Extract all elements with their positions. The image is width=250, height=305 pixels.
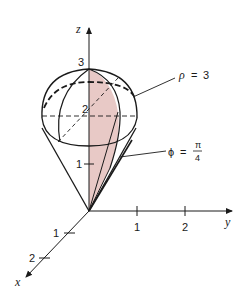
svg-text:3: 3 [203, 69, 209, 81]
cone-sphere-diagram: z y x 3 2 1 1 2 1 2 ρ = 3 ϕ = π 4 [0, 0, 250, 305]
svg-text:ρ: ρ [178, 68, 185, 82]
z-tick-1: 1 [76, 158, 82, 170]
y-tick-1: 1 [134, 221, 140, 233]
svg-text:π: π [195, 140, 201, 150]
cone-equation-label: ϕ = π 4 [168, 140, 202, 163]
svg-text:4: 4 [195, 153, 200, 163]
svg-text:=: = [180, 146, 186, 158]
y-tick-2: 2 [182, 221, 188, 233]
rho-leader-line [133, 78, 175, 97]
z-axis-label: z [75, 22, 81, 36]
sphere-equation-label: ρ = 3 [178, 68, 209, 82]
svg-text:=: = [191, 69, 197, 81]
x-tick-2: 2 [29, 252, 35, 264]
x-tick-1: 1 [53, 227, 59, 239]
axes [26, 28, 232, 277]
z-tick-2: 2 [82, 103, 88, 115]
phi-leader-line [120, 151, 166, 157]
x-axis [26, 211, 89, 277]
z-tick-3: 3 [78, 56, 84, 68]
svg-text:ϕ: ϕ [168, 146, 174, 158]
y-axis-label: y [224, 215, 231, 229]
x-axis-label: x [14, 275, 21, 289]
